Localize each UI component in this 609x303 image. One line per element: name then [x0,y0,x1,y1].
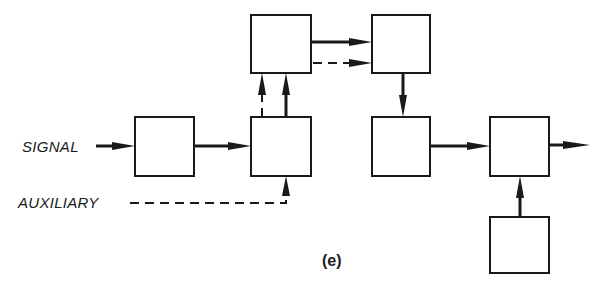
arrow-c-to-d-solid [311,38,372,46]
arrow-d-to-e [399,73,407,117]
block-b [251,117,311,176]
arrow-b-to-c-dashed [258,73,266,117]
auxiliary-label: AUXILIARY [17,194,99,211]
arrow-e-to-f [430,142,490,150]
signal-label: SIGNAL [22,138,79,155]
figure-caption: (e) [322,252,342,269]
block-diagram: SIGNAL AUXILIARY [0,0,609,303]
block-a [135,117,194,176]
block-f [490,117,549,176]
block-c [251,15,311,73]
arrow-c-to-d-dashed [313,59,372,67]
arrow-signal-to-a [96,142,135,150]
arrow-b-to-c-solid [282,73,290,117]
block-d [372,15,430,73]
block-g [490,217,549,273]
arrow-f-to-output [549,141,590,149]
arrow-a-to-b [194,142,251,150]
arrow-auxiliary-to-b [130,176,290,203]
arrow-g-to-f [516,176,524,217]
block-e [372,117,430,176]
